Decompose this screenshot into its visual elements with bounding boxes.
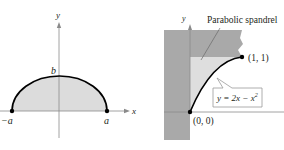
right-vertex-label: a [104,115,109,126]
y-axis-label: y [181,14,186,23]
equation-label: y = 2x − x2 [216,92,258,103]
origin-point [188,110,192,114]
right-vertex-point [105,109,109,113]
origin-point-label: (0, 0) [193,116,214,127]
end-point [240,55,244,59]
wall-region [164,30,190,140]
y-axis-label: y [55,10,60,20]
x-axis-label: x [131,106,136,116]
top-vertex-label: b [51,65,56,76]
x-axis-arrow-icon [124,109,130,113]
half-ellipse-figure: y x b −a a [0,10,136,138]
y-axis-arrow-icon [57,22,61,28]
end-point-label: (1, 1) [248,53,269,64]
parabolic-spandrel-figure: y Parabolic spandrel (1, 1) (0, 0) y = 2… [164,14,284,140]
spandrel-title-label: Parabolic spandrel [207,15,278,25]
figure-canvas: y x b −a a y Parabolic spandrel (1, 1) (… [0,0,284,150]
equation-exponent: 2 [255,92,258,98]
y-axis-arrow-icon [188,24,192,30]
ellipse-region [12,76,107,111]
left-vertex-point [10,109,14,113]
equation-base: y = 2x − x [216,93,255,103]
left-vertex-label: −a [1,115,13,126]
